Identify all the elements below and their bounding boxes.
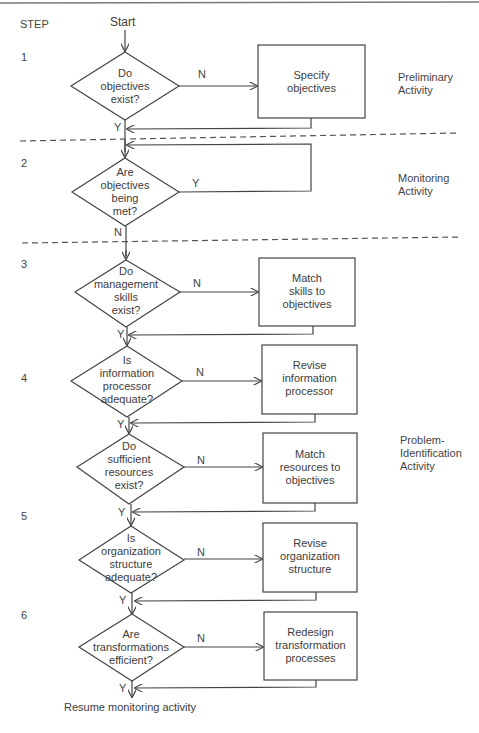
- decision-text-1: Do objectives exist?: [85, 67, 165, 106]
- yes-label-7: Y: [119, 682, 126, 694]
- top-rule: [0, 2, 479, 3]
- return-arrow-7: [135, 680, 316, 688]
- separator-1: [20, 133, 458, 141]
- activity-monitoring: Monitoring Activity: [398, 172, 449, 198]
- end-label: Resume monitoring activity: [64, 701, 196, 714]
- step-number-4: 4: [21, 372, 27, 384]
- step-number-1: 1: [21, 51, 27, 63]
- step-number-5: 5: [21, 510, 27, 522]
- yes-label-5: Y: [118, 506, 125, 518]
- action-text-2: Match skills to objectives: [259, 272, 355, 311]
- decision-text-3: Do management skills exist?: [80, 265, 172, 317]
- activity-problem-identification: Problem- Identification Activity: [400, 434, 462, 473]
- step-number-6: 6: [21, 609, 27, 621]
- yes-label-1: Y: [114, 121, 121, 133]
- no-label-7: N: [197, 632, 205, 644]
- action-text-6: Redesign transformation processes: [264, 626, 357, 665]
- yes-label-4: Y: [117, 418, 124, 430]
- decision-text-5: Do sufficient resources exist?: [84, 440, 174, 492]
- decision-text-2: Are objectives being met?: [85, 166, 165, 218]
- no-label-5: N: [197, 454, 205, 466]
- decision-text-4: Is information processor adequate?: [80, 354, 174, 406]
- decision-text-7: Are transformations efficient?: [78, 628, 184, 667]
- return-arrow-5: [133, 503, 315, 512]
- decision-text-6: Is organization structure adequate?: [84, 532, 178, 584]
- action-text-5: Revise organization structure: [263, 537, 357, 576]
- step-number-3: 3: [21, 258, 27, 270]
- separator-2: [22, 237, 460, 243]
- activity-preliminary: Preliminary Activity: [398, 71, 453, 97]
- yes-label-6: Y: [119, 594, 126, 606]
- flowchart-canvas: [0, 0, 479, 733]
- yes-label-2: Y: [192, 177, 199, 189]
- step-header: STEP: [20, 18, 49, 30]
- no-label-2: N: [114, 226, 122, 238]
- yes-label-3: Y: [117, 328, 124, 340]
- no-label-3: N: [193, 277, 201, 289]
- action-text-3: Revise information processor: [262, 359, 357, 398]
- action-text-1: Specify objectives: [258, 69, 365, 95]
- return-arrow-6: [135, 592, 316, 601]
- return-arrow-4: [131, 414, 315, 423]
- start-label: Start: [110, 16, 135, 29]
- no-label-1: N: [198, 68, 206, 80]
- step-number-2: 2: [21, 157, 27, 169]
- no-label-4: N: [196, 366, 204, 378]
- action-text-4: Match resources to objectives: [263, 448, 357, 487]
- return-arrow-3: [129, 326, 313, 335]
- no-label-6: N: [197, 546, 205, 558]
- return-arrow-1: [127, 118, 311, 129]
